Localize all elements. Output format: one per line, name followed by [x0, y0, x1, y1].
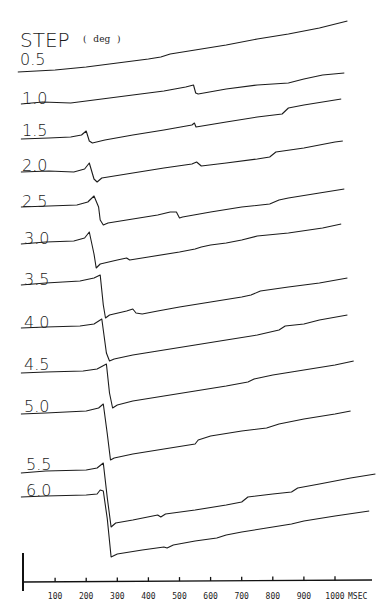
x-tick-label-500: 500 — [172, 592, 186, 601]
x-tick-label-300: 300 — [110, 592, 124, 601]
x-tick-label-800: 800 — [266, 592, 280, 601]
x-axis-label: MSEC — [348, 592, 367, 601]
trace-line-4-5 — [21, 361, 354, 408]
trace-label-3-0: 3.0 — [24, 229, 49, 248]
chart-canvas — [0, 0, 385, 616]
x-tick-label-900: 900 — [297, 592, 311, 601]
trace-line-1-5 — [21, 99, 341, 143]
x-tick-label-100: 100 — [48, 592, 62, 601]
trace-line-2-0 — [21, 141, 343, 182]
trace-line-1-0 — [21, 73, 344, 104]
trace-label-5-5: 5.5 — [26, 455, 51, 474]
x-tick-label-600: 600 — [203, 592, 217, 601]
trace-label-6-0: 6.0 — [26, 481, 51, 500]
trace-line-3-5 — [21, 275, 348, 318]
trace-group — [18, 21, 376, 557]
trace-line-3-0 — [21, 224, 341, 268]
x-axis-line — [23, 580, 372, 582]
x-tick-label-1000: 1000 — [325, 592, 344, 601]
axes-group — [23, 553, 372, 591]
trace-label-4-0: 4.0 — [24, 313, 49, 332]
x-tick-label-400: 400 — [141, 592, 155, 601]
trace-line-6-0 — [21, 490, 369, 557]
trace-label-0-5: 0.5 — [20, 50, 45, 69]
trace-line-5-0 — [21, 404, 351, 460]
trace-label-4-5: 4.5 — [24, 355, 49, 374]
trace-label-1-5: 1.5 — [22, 121, 47, 140]
trace-label-5-0: 5.0 — [24, 397, 49, 416]
trace-line-4-0 — [21, 315, 348, 361]
trace-label-2-5: 2.5 — [22, 192, 47, 211]
trace-label-2-0: 2.0 — [22, 156, 47, 175]
trace-label-1-0: 1.0 — [22, 89, 47, 108]
trace-line-2-5 — [21, 189, 344, 225]
title-unit: ( deg ) — [83, 34, 121, 44]
trace-label-3-5: 3.5 — [24, 270, 49, 289]
x-tick-label-200: 200 — [79, 592, 93, 601]
chart-title: STEP — [20, 28, 70, 52]
x-tick-label-700: 700 — [234, 592, 248, 601]
